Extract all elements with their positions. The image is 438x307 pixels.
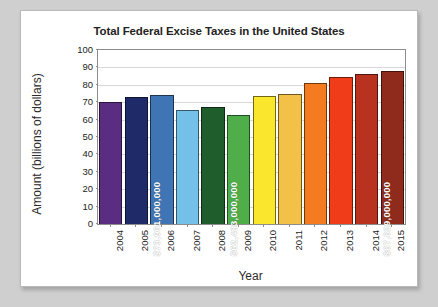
bar-2014[interactable] (355, 74, 378, 224)
bar-2013[interactable] (329, 77, 352, 224)
x-tick-label-2011: 2011 (293, 230, 304, 250)
x-axis-title: Year (97, 269, 404, 283)
x-tick-mark (314, 224, 315, 227)
x-tick-label-2009: 2009 (242, 230, 253, 251)
x-tick-label-2004: 2004 (114, 230, 125, 251)
x-tick-label-2008: 2008 (216, 230, 227, 251)
x-tick-mark (340, 224, 341, 227)
x-tick-label-2010: 2010 (267, 230, 278, 251)
y-tick-label: 70 (67, 96, 93, 107)
x-tick-label-2012: 2012 (318, 230, 329, 251)
y-tick-label: 60 (67, 113, 93, 124)
y-tick-label: 90 (67, 61, 93, 72)
x-tick-mark (212, 224, 213, 227)
bar-2011[interactable] (278, 94, 301, 224)
y-axis-title: Amount (billions of dollars) (28, 49, 46, 239)
bar-2007[interactable] (176, 110, 199, 224)
x-tick-mark (135, 224, 136, 227)
x-tick-label-2015: 2015 (395, 230, 406, 251)
figure-card: Total Federal Excise Taxes in the United… (20, 10, 418, 287)
bar-2012[interactable] (304, 83, 327, 224)
x-tick-label-2013: 2013 (344, 230, 355, 251)
y-tick-label: 50 (67, 131, 93, 142)
x-tick-mark (187, 224, 188, 227)
y-tick-label: 20 (67, 183, 93, 194)
bar-2009[interactable]: $62,483,000,000 (227, 115, 250, 224)
y-tick-label: 100 (67, 44, 93, 55)
bar-series: $73,961,000,000$62,483,000,000$87,829,00… (98, 50, 405, 224)
x-tick-label-2007: 2007 (191, 230, 202, 251)
x-tick-mark (110, 224, 111, 227)
y-tick-label: 10 (67, 200, 93, 211)
bar-2008[interactable] (201, 107, 224, 224)
x-tick-mark (391, 224, 392, 227)
y-tick-label: 30 (67, 165, 93, 176)
y-axis-title-text: Amount (billions of dollars) (30, 73, 44, 214)
y-tick-label: 40 (67, 148, 93, 159)
x-tick-label-2014: 2014 (370, 230, 381, 251)
y-axis-ticks: 0102030405060708090100 (65, 49, 93, 223)
x-tick-mark (238, 224, 239, 227)
bar-2004[interactable] (99, 102, 122, 224)
bar-2005[interactable] (125, 97, 148, 224)
x-tick-label-2006: 2006 (165, 230, 176, 251)
x-axis-ticks: 2004200520062007200820092010201120122013… (97, 224, 404, 268)
y-tick-label: 80 (67, 78, 93, 89)
y-tick-label: 0 (67, 218, 93, 229)
bar-2015[interactable]: $87,829,000,000 (381, 71, 404, 224)
x-tick-mark (161, 224, 162, 227)
x-tick-mark (289, 224, 290, 227)
x-tick-mark (366, 224, 367, 227)
bar-2006[interactable]: $73,961,000,000 (150, 95, 173, 224)
x-tick-mark (263, 224, 264, 227)
chart-title: Total Federal Excise Taxes in the United… (21, 25, 417, 37)
x-tick-label-2005: 2005 (139, 230, 150, 251)
plot-area: $73,961,000,000$62,483,000,000$87,829,00… (97, 49, 406, 225)
bar-2010[interactable] (253, 96, 276, 224)
